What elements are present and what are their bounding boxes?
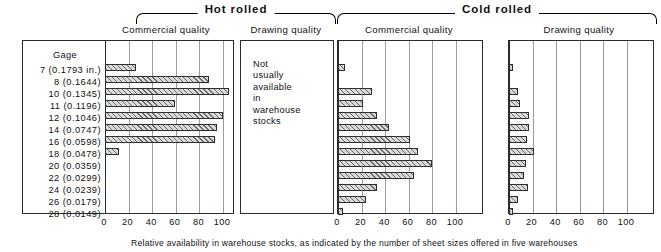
figure-root: Hot rolled Cold rolled Commercial qualit… <box>0 0 661 252</box>
bar-p1-gage-14 <box>105 124 217 131</box>
bar-p3-gage-20 <box>338 160 432 167</box>
tick-p1-20: 20 <box>118 217 138 227</box>
bar-p1-gage-18 <box>105 148 119 155</box>
not-available-note: Not usually available in warehouse stock… <box>253 59 301 127</box>
panel-title-hot-commercial: Commercial quality <box>104 24 228 36</box>
bar-p1-gage-7 <box>105 64 136 71</box>
tick-p3-100: 100 <box>445 217 465 227</box>
gridline-60-p3 <box>409 41 410 213</box>
group-title-hot-rolled: Hot rolled <box>198 2 275 16</box>
tick-p4-0: 0 <box>498 217 518 227</box>
bar-p1-gage-12 <box>105 112 223 119</box>
plot-area-cold-commercial <box>338 41 482 213</box>
bar-p3-gage-28 <box>338 208 343 215</box>
bar-p3-gage-10 <box>338 88 372 95</box>
bar-p3-gage-22 <box>338 172 414 179</box>
tick-p1-0: 0 <box>94 217 114 227</box>
gridline-80-p4 <box>603 41 604 213</box>
tick-p4-80: 80 <box>592 217 612 227</box>
figure-caption: Relative availability in warehouse stock… <box>131 238 578 248</box>
bar-p4-gage-20 <box>509 160 526 167</box>
bar-p3-gage-11 <box>338 100 363 107</box>
tick-p4-40: 40 <box>545 217 565 227</box>
gridline-60-p4 <box>580 41 581 213</box>
panel-title-hot-drawing: Drawing quality <box>238 24 334 36</box>
bar-p3-gage-7 <box>338 64 345 71</box>
group-title-cold-rolled: Cold rolled <box>455 2 539 16</box>
bar-p4-gage-11 <box>509 100 520 107</box>
bar-p4-gage-7 <box>509 64 513 71</box>
gridline-40-p4 <box>556 41 557 213</box>
bar-p3-gage-18 <box>338 148 418 155</box>
bar-p3-gage-24 <box>338 184 377 191</box>
tick-p4-100: 100 <box>616 217 636 227</box>
tick-p3-40: 40 <box>374 217 394 227</box>
bar-p4-gage-14 <box>509 124 529 131</box>
plot-area-hot-commercial <box>23 41 233 213</box>
gridline-80-p3 <box>432 41 433 213</box>
tick-p3-60: 60 <box>398 217 418 227</box>
bar-p4-gage-12 <box>509 112 529 119</box>
tick-p1-80: 80 <box>188 217 208 227</box>
panel-hot-drawing: Not usually available in warehouse stock… <box>240 40 334 214</box>
bar-p4-gage-18 <box>509 148 534 155</box>
bar-p4-gage-28 <box>509 208 513 215</box>
bar-p4-gage-16 <box>509 136 527 143</box>
gridline-100-p4 <box>627 41 628 213</box>
tick-p3-80: 80 <box>421 217 441 227</box>
tick-p4-60: 60 <box>569 217 589 227</box>
bar-p1-gage-10 <box>105 88 229 95</box>
panel-cold-drawing <box>508 40 654 214</box>
panel-title-cold-commercial: Commercial quality <box>337 24 481 36</box>
bar-p3-gage-26 <box>338 196 366 203</box>
tick-p1-100: 100 <box>212 217 232 227</box>
plot-area-cold-drawing <box>509 41 653 213</box>
tick-p3-0: 0 <box>327 217 347 227</box>
tick-p4-20: 20 <box>522 217 542 227</box>
bar-p1-gage-16 <box>105 136 215 143</box>
gridline-100-p1 <box>223 41 224 213</box>
panel-title-cold-drawing: Drawing quality <box>508 24 650 36</box>
bar-p3-gage-16 <box>338 136 410 143</box>
group-bracket-hot-rolled: Hot rolled <box>136 2 336 24</box>
panel-hot-commercial: Gage 7 (0.1793 in.) 8 (0.1644) 10 (0.134… <box>22 40 234 214</box>
gridline-20-p4 <box>533 41 534 213</box>
tick-p1-60: 60 <box>165 217 185 227</box>
bar-p1-gage-11 <box>105 100 175 107</box>
gridline-100-p3 <box>456 41 457 213</box>
bar-p3-gage-14 <box>338 124 389 131</box>
group-bracket-cold-rolled: Cold rolled <box>337 2 657 24</box>
bar-p4-gage-22 <box>509 172 524 179</box>
bar-p3-gage-12 <box>338 112 377 119</box>
tick-p1-40: 40 <box>141 217 161 227</box>
bar-p4-gage-10 <box>509 88 518 95</box>
tick-p3-20: 20 <box>351 217 371 227</box>
bar-p1-gage-8 <box>105 76 209 83</box>
bar-p4-gage-24 <box>509 184 528 191</box>
panel-cold-commercial <box>337 40 483 214</box>
bar-p4-gage-26 <box>509 196 518 203</box>
